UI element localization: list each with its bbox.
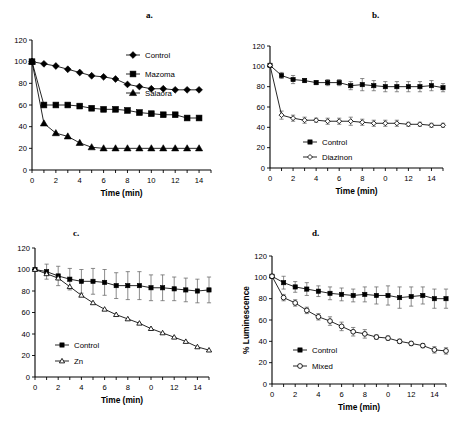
data-point [386, 336, 391, 341]
data-point [360, 83, 364, 87]
data-point [293, 285, 297, 289]
x-tick-label: 2 [293, 390, 297, 399]
data-point [195, 145, 202, 151]
data-point [302, 118, 307, 123]
y-tick-label: 40 [259, 337, 267, 346]
data-point [52, 63, 59, 70]
x-tick-label: 2 [291, 174, 295, 183]
data-point [394, 121, 399, 126]
data-point [337, 80, 341, 84]
data-point [148, 145, 155, 151]
data-point [406, 85, 410, 89]
legend-label: Diazinon [322, 153, 352, 162]
y-tick-label: 120 [17, 244, 30, 253]
y-tick-label: 0 [263, 380, 267, 389]
y-tick-label: 60 [22, 308, 30, 317]
legend-marker [130, 52, 137, 59]
data-point [195, 344, 200, 349]
x-tick-label: 2 [56, 383, 60, 392]
data-point [360, 120, 365, 125]
legend-marker [298, 348, 302, 352]
panel-b: b. 1201008060402000246801214Time (min)Co… [231, 0, 462, 216]
y-tick-label: 40 [22, 330, 30, 339]
data-point [302, 78, 306, 82]
data-point [371, 121, 376, 126]
data-point [52, 130, 59, 136]
x-axis-title: Time (min) [338, 402, 380, 412]
data-point [90, 300, 95, 305]
data-point [136, 145, 143, 151]
y-tick-label: 100 [14, 57, 27, 66]
data-point [420, 343, 425, 348]
data-point [349, 84, 353, 88]
x-tick-label: 14 [430, 390, 438, 399]
data-point [207, 288, 211, 292]
legend-label: Zn [74, 357, 83, 366]
data-point [100, 73, 107, 80]
legend-label: Control [312, 346, 337, 355]
series-control [33, 264, 211, 303]
x-tick-label: 0 [33, 383, 37, 392]
data-point [64, 66, 71, 73]
x-tick-label: 2 [54, 176, 58, 185]
data-point [383, 121, 388, 126]
data-point [383, 85, 387, 89]
data-point [76, 139, 83, 145]
x-tick-label: 0 [386, 390, 390, 399]
x-tick-label: 6 [101, 176, 105, 185]
data-point [76, 69, 83, 76]
x-tick-label: 0 [270, 390, 274, 399]
y-tick-label: 80 [257, 82, 265, 91]
y-tick-label: 100 [17, 265, 30, 274]
legend: ControlDiazinon [303, 138, 352, 162]
x-tick-label: 8 [363, 390, 367, 399]
x-tick-label: 4 [78, 176, 82, 185]
data-point [172, 86, 179, 93]
y-tick-label: 20 [257, 143, 265, 152]
panel-a-plot: 12010080604020002468101214Time (min)Cont… [0, 0, 231, 216]
series-zn [32, 267, 211, 352]
data-point [148, 326, 153, 331]
data-point [326, 80, 330, 84]
panel-c: c. 1201008060402000246801214Time (min)Co… [0, 216, 231, 432]
x-tick-label: 14 [195, 176, 203, 185]
legend: ControlMazomaSalaora [126, 51, 176, 98]
data-point [149, 286, 153, 290]
data-point [314, 80, 318, 84]
x-tick-label: 12 [404, 174, 412, 183]
legend: ControlMixed [293, 346, 337, 371]
data-point [291, 116, 296, 121]
x-tick-label: 12 [407, 390, 415, 399]
x-tick-label: 4 [79, 383, 83, 392]
data-point [432, 347, 437, 352]
data-point [112, 76, 119, 83]
y-tick-label: 120 [14, 36, 27, 45]
data-point [386, 293, 390, 297]
y-tick-label: 80 [19, 79, 27, 88]
x-tick-label: 6 [337, 174, 341, 183]
data-point [441, 86, 445, 90]
data-point [196, 86, 203, 93]
data-point [409, 341, 414, 346]
y-tick-label: 60 [259, 316, 267, 325]
data-point [351, 293, 355, 297]
x-tick-label: 0 [30, 176, 34, 185]
data-point [397, 339, 402, 344]
data-point [316, 314, 321, 319]
x-tick-label: 14 [193, 383, 201, 392]
y-tick-label: 20 [19, 144, 27, 153]
y-tick-label: 100 [254, 273, 267, 282]
y-tick-label: 0 [261, 164, 265, 173]
data-point [102, 307, 107, 312]
data-point [305, 287, 309, 291]
x-axis-title: Time (min) [100, 188, 142, 198]
y-tick-label: 120 [252, 42, 265, 51]
y-tick-label: 0 [26, 373, 30, 382]
x-tick-label: 14 [427, 174, 435, 183]
panel-a: a. 12010080604020002468101214Time (min)C… [0, 0, 231, 216]
legend-label: Control [74, 341, 99, 350]
data-point [102, 280, 106, 284]
series-diazinon [268, 63, 446, 128]
data-point [68, 277, 72, 281]
data-point [328, 319, 333, 324]
